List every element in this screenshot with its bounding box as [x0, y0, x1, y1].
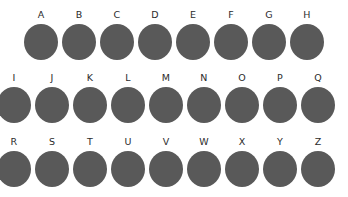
- circle-label-x: X: [224, 135, 260, 149]
- circle-cell-k[interactable]: K: [72, 71, 108, 133]
- circle-label-s: S: [34, 135, 70, 149]
- circle-row-1: ABCDEFGH: [0, 8, 348, 70]
- circle-dot-a[interactable]: [24, 24, 58, 60]
- circle-label-j: J: [34, 71, 70, 85]
- circle-cell-z[interactable]: Z: [300, 135, 336, 197]
- circle-label-a: A: [23, 8, 59, 22]
- circle-dot-o[interactable]: [225, 87, 259, 123]
- circle-cell-r[interactable]: R: [0, 135, 32, 197]
- circle-dot-v[interactable]: [149, 151, 183, 187]
- circle-label-r: R: [0, 135, 32, 149]
- circle-dot-q[interactable]: [301, 87, 335, 123]
- circle-dot-y[interactable]: [263, 151, 297, 187]
- circle-dot-n[interactable]: [187, 87, 221, 123]
- circle-label-c: C: [99, 8, 135, 22]
- circle-dot-b[interactable]: [62, 24, 96, 60]
- circle-label-n: N: [186, 71, 222, 85]
- circle-label-z: Z: [300, 135, 336, 149]
- circle-label-q: Q: [300, 71, 336, 85]
- circle-cell-t[interactable]: T: [72, 135, 108, 197]
- circle-cell-b[interactable]: B: [61, 8, 97, 70]
- circle-label-d: D: [137, 8, 173, 22]
- circle-cell-f[interactable]: F: [213, 8, 249, 70]
- circle-dot-j[interactable]: [35, 87, 69, 123]
- circle-cell-n[interactable]: N: [186, 71, 222, 133]
- circle-cell-a[interactable]: A: [23, 8, 59, 70]
- circle-cell-g[interactable]: G: [251, 8, 287, 70]
- circle-label-m: M: [148, 71, 184, 85]
- circle-cell-s[interactable]: S: [34, 135, 70, 197]
- circle-dot-l[interactable]: [111, 87, 145, 123]
- circle-cell-e[interactable]: E: [175, 8, 211, 70]
- circle-cell-y[interactable]: Y: [262, 135, 298, 197]
- circle-dot-x[interactable]: [225, 151, 259, 187]
- circle-row-3: RSTUVWXYZ: [0, 135, 348, 197]
- circle-cell-i[interactable]: I: [0, 71, 32, 133]
- circle-cell-c[interactable]: C: [99, 8, 135, 70]
- circle-label-k: K: [72, 71, 108, 85]
- circle-dot-h[interactable]: [290, 24, 324, 60]
- circle-dot-t[interactable]: [73, 151, 107, 187]
- circle-cell-h[interactable]: H: [289, 8, 325, 70]
- circle-dot-r[interactable]: [0, 151, 31, 187]
- circle-label-b: B: [61, 8, 97, 22]
- circle-cell-p[interactable]: P: [262, 71, 298, 133]
- circle-grid-canvas: ABCDEFGHIJKLMNOPQRSTUVWXYZ: [0, 0, 348, 197]
- circle-dot-d[interactable]: [138, 24, 172, 60]
- circle-dot-p[interactable]: [263, 87, 297, 123]
- circle-dot-s[interactable]: [35, 151, 69, 187]
- circle-label-w: W: [186, 135, 222, 149]
- circle-cell-o[interactable]: O: [224, 71, 260, 133]
- circle-label-t: T: [72, 135, 108, 149]
- circle-label-l: L: [110, 71, 146, 85]
- circle-label-p: P: [262, 71, 298, 85]
- circle-label-v: V: [148, 135, 184, 149]
- circle-dot-e[interactable]: [176, 24, 210, 60]
- circle-cell-q[interactable]: Q: [300, 71, 336, 133]
- circle-dot-k[interactable]: [73, 87, 107, 123]
- circle-label-f: F: [213, 8, 249, 22]
- circle-cell-j[interactable]: J: [34, 71, 70, 133]
- circle-dot-g[interactable]: [252, 24, 286, 60]
- circle-label-h: H: [289, 8, 325, 22]
- circle-cell-l[interactable]: L: [110, 71, 146, 133]
- circle-dot-c[interactable]: [100, 24, 134, 60]
- circle-dot-u[interactable]: [111, 151, 145, 187]
- circle-cell-x[interactable]: X: [224, 135, 260, 197]
- circle-dot-i[interactable]: [0, 87, 31, 123]
- circle-cell-w[interactable]: W: [186, 135, 222, 197]
- circle-dot-f[interactable]: [214, 24, 248, 60]
- circle-row-2: IJKLMNOPQ: [0, 71, 348, 133]
- circle-label-o: O: [224, 71, 260, 85]
- circle-dot-m[interactable]: [149, 87, 183, 123]
- circle-dot-w[interactable]: [187, 151, 221, 187]
- circle-dot-z[interactable]: [301, 151, 335, 187]
- circle-label-g: G: [251, 8, 287, 22]
- circle-cell-u[interactable]: U: [110, 135, 146, 197]
- circle-label-i: I: [0, 71, 32, 85]
- circle-cell-v[interactable]: V: [148, 135, 184, 197]
- circle-label-y: Y: [262, 135, 298, 149]
- circle-cell-m[interactable]: M: [148, 71, 184, 133]
- circle-cell-d[interactable]: D: [137, 8, 173, 70]
- circle-label-u: U: [110, 135, 146, 149]
- circle-label-e: E: [175, 8, 211, 22]
